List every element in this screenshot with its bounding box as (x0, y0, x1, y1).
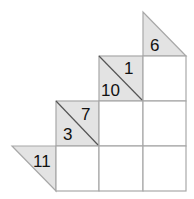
answer-cell-r1c3[interactable] (143, 56, 186, 101)
clue-down-6: 6 (150, 36, 159, 55)
clue-cell-10-1: 10 1 (99, 56, 143, 101)
clue-cell-6: 6 (143, 12, 186, 56)
clue-cell-11: 11 (12, 146, 56, 191)
clue-cell-3-7: 3 7 (56, 101, 99, 146)
clue-across-1: 1 (124, 59, 133, 78)
kakuro-board: 6 10 1 3 7 11 (0, 0, 194, 199)
answer-cell-r3c1[interactable] (56, 146, 99, 191)
answer-cell-r3c3[interactable] (143, 146, 186, 191)
answer-cell-r3c2[interactable] (99, 146, 143, 191)
clue-down-10: 10 (101, 81, 120, 100)
answer-cell-r2c2[interactable] (99, 101, 143, 146)
clue-down-3: 3 (63, 125, 72, 144)
clue-across-7: 7 (81, 105, 90, 124)
clue-across-11: 11 (33, 152, 51, 171)
answer-cell-r2c3[interactable] (143, 101, 186, 146)
